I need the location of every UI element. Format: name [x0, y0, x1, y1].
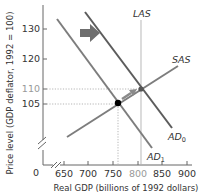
initial-equilibrium-point — [115, 100, 121, 106]
y-tick-label-130: 130 — [22, 23, 40, 34]
x-tick-label-800: 800 — [129, 168, 147, 179]
ad1-label: AD1 — [146, 151, 165, 164]
x-tick-label-900: 900 — [178, 168, 196, 179]
y-tick-label-105: 105 — [22, 98, 40, 109]
x-tick-label-700: 700 — [79, 168, 97, 179]
x-axis — [43, 161, 192, 168]
origin-label: 0 — [33, 167, 39, 178]
y-tick-label-120: 120 — [22, 53, 40, 64]
x-tick-label-750: 750 — [104, 168, 122, 179]
sas-label: SAS — [172, 54, 191, 65]
x-tick-label-650: 650 — [55, 168, 73, 179]
ad0-label: AD0 — [167, 131, 186, 144]
y-tick-label-110: 110 — [22, 83, 40, 94]
ad0-curve — [85, 12, 172, 128]
chart: LAS SAS AD0 AD1 130 120 110 105 0 650 70… — [0, 0, 199, 195]
x-tick-label-850: 850 — [153, 168, 171, 179]
las-label: LAS — [133, 8, 151, 19]
sas-curve — [67, 66, 178, 137]
x-axis-title: Real GDP (billions of 1992 dollars) — [54, 183, 199, 193]
new-equilibrium-point — [138, 86, 143, 91]
y-axis-title: Price level (GDP deflator, 1992 = 100) — [5, 12, 15, 175]
